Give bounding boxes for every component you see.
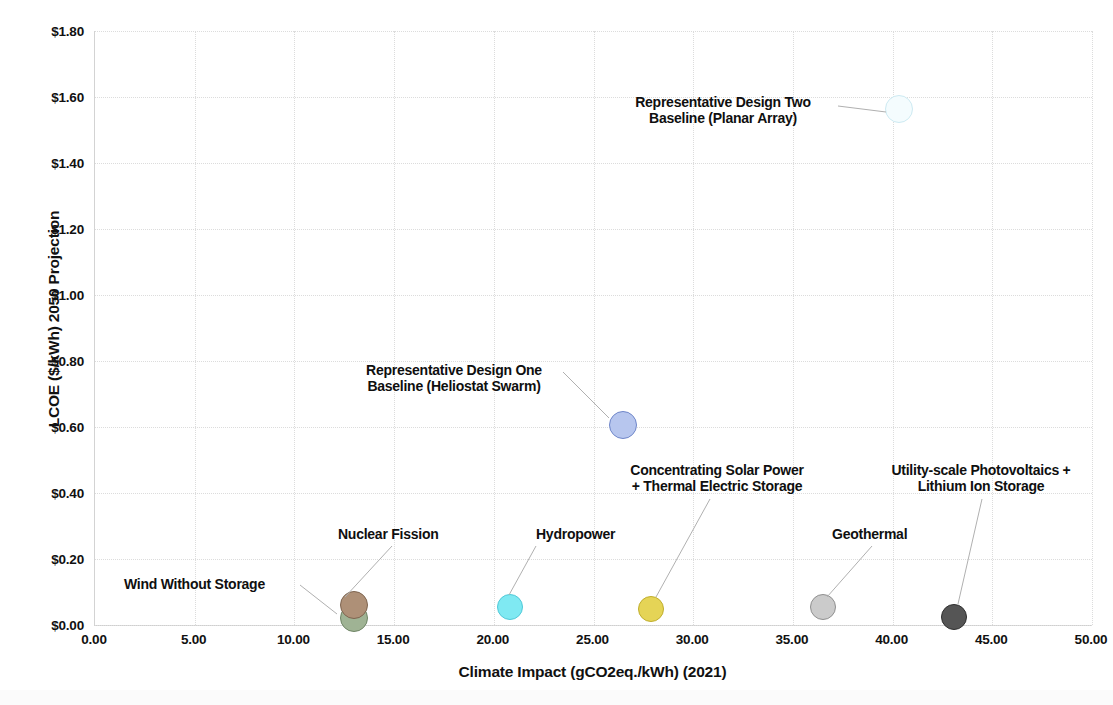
y-axis-tick-label: $0.40	[10, 486, 84, 501]
gridline-vertical	[1092, 31, 1093, 625]
y-axis-tick-label: $1.00	[10, 288, 84, 303]
y-axis-tick-label: $1.20	[10, 222, 84, 237]
data-point-marker[interactable]	[340, 591, 368, 619]
gridline-vertical	[195, 31, 196, 625]
y-axis-tick-label: $0.60	[10, 420, 84, 435]
data-point-marker[interactable]	[638, 596, 664, 622]
point-label: Representative Design Two Baseline (Plan…	[615, 94, 831, 126]
x-axis-tick-label: 20.00	[453, 632, 533, 647]
x-axis-tick-label: 0.00	[54, 632, 134, 647]
y-axis-tick-label: $1.80	[10, 24, 84, 39]
point-label: Nuclear Fission	[338, 526, 439, 542]
x-axis-tick-label: 15.00	[353, 632, 433, 647]
x-axis-tick-label: 25.00	[553, 632, 633, 647]
point-label: Representative Design One Baseline (Heli…	[348, 362, 560, 394]
y-axis-tick-label: $0.80	[10, 354, 84, 369]
scatter-chart: LCOE ($/kWh) 2050 Projection Climate Imp…	[0, 0, 1113, 705]
y-axis-tick-label: $1.40	[10, 156, 84, 171]
x-axis-tick-label: 50.00	[1051, 632, 1113, 647]
data-point-marker[interactable]	[810, 594, 836, 620]
point-label: Utility-scale Photovoltaics + Lithium Io…	[876, 462, 1086, 494]
data-point-marker[interactable]	[885, 95, 913, 123]
point-label: Wind Without Storage	[124, 576, 265, 592]
y-axis-tick-label: $0.20	[10, 552, 84, 567]
x-axis-tick-label: 35.00	[752, 632, 832, 647]
point-label: Hydropower	[536, 526, 615, 542]
point-label: Concentrating Solar Power + Thermal Elec…	[613, 462, 821, 494]
data-point-marker[interactable]	[609, 411, 637, 439]
x-axis-tick-label: 5.00	[154, 632, 234, 647]
scan-artifact-band	[0, 690, 1113, 705]
gridline-vertical	[992, 31, 993, 625]
x-axis-tick-label: 30.00	[652, 632, 732, 647]
gridline-horizontal	[95, 625, 1092, 626]
y-axis-tick-label: $1.60	[10, 90, 84, 105]
data-point-marker[interactable]	[497, 594, 523, 620]
gridline-vertical	[494, 31, 495, 625]
x-axis-title: Climate Impact (gCO2eq./kWh) (2021)	[94, 663, 1091, 681]
y-axis-tick-label: $0.00	[10, 618, 84, 633]
point-label: Geothermal	[832, 526, 907, 542]
x-axis-tick-label: 10.00	[253, 632, 333, 647]
x-axis-tick-label: 40.00	[852, 632, 932, 647]
x-axis-tick-label: 45.00	[951, 632, 1031, 647]
data-point-marker[interactable]	[941, 604, 967, 630]
gridline-vertical	[294, 31, 295, 625]
